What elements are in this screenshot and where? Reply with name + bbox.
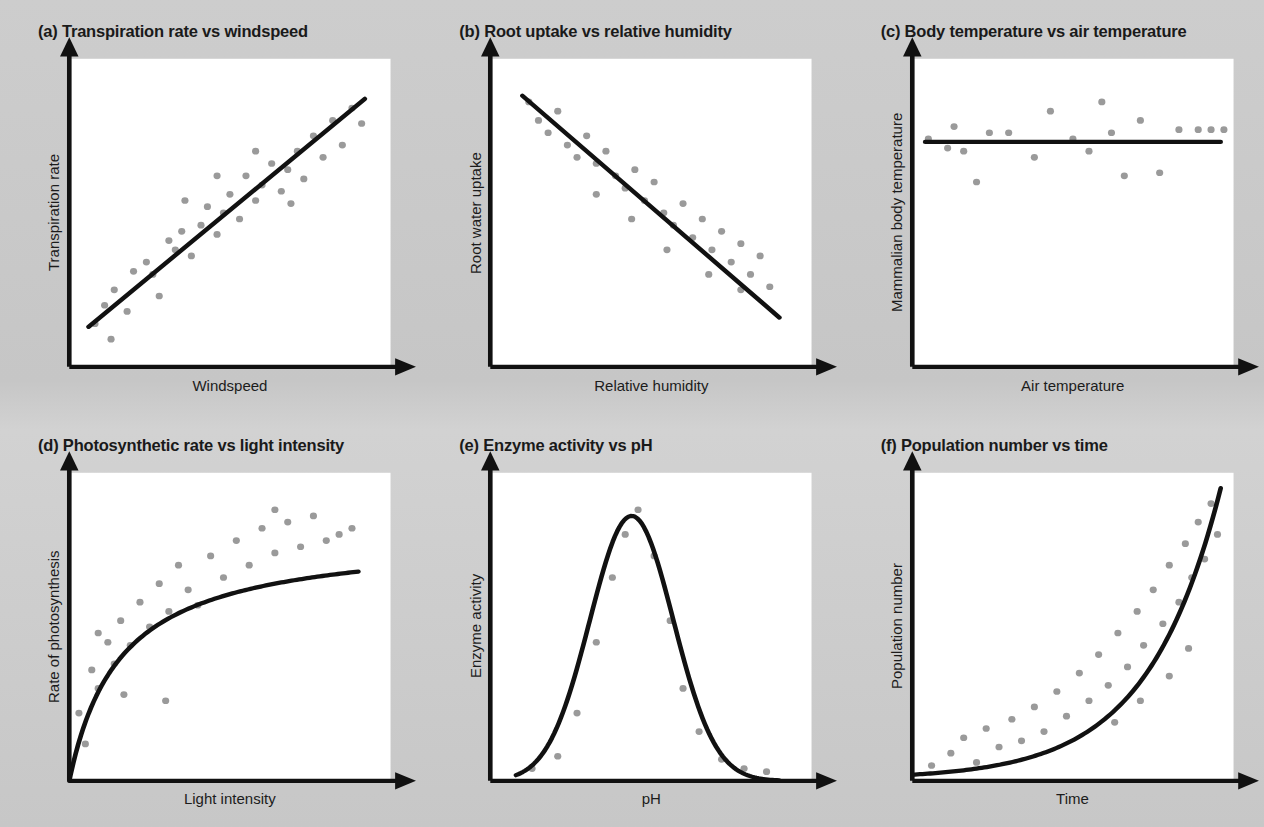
data-point <box>1165 561 1172 568</box>
panel-c-plot <box>873 48 1254 404</box>
panel-a-content <box>60 37 416 375</box>
data-point <box>973 759 980 766</box>
data-point <box>175 561 182 568</box>
x-axis-arrowhead <box>395 772 416 789</box>
plot-area <box>912 472 1233 780</box>
data-point <box>545 129 552 136</box>
data-point <box>747 271 754 278</box>
data-point <box>622 531 629 538</box>
data-point <box>944 145 951 152</box>
data-point <box>319 154 326 161</box>
data-point <box>271 506 278 513</box>
panel-f-content <box>903 451 1259 789</box>
panel-a-plot <box>30 48 411 404</box>
data-point <box>233 537 240 544</box>
x-axis-arrowhead <box>1238 772 1259 789</box>
data-point <box>1156 169 1163 176</box>
panel-e-ylabel: Enzyme activity <box>467 574 484 678</box>
panel-f-xlabel: Time <box>1056 790 1089 807</box>
data-point <box>323 537 330 544</box>
plot-area <box>912 59 1233 367</box>
data-point <box>120 691 127 698</box>
data-point <box>718 228 725 235</box>
panel-a-xlabel: Windspeed <box>192 377 267 394</box>
panel-grid: (a) Transpiration rate vs windspeed Wind… <box>0 0 1264 827</box>
data-point <box>107 336 114 343</box>
panel-d-content <box>60 451 416 789</box>
data-point <box>1220 126 1227 133</box>
data-point <box>767 283 774 290</box>
data-point <box>213 173 220 180</box>
data-point <box>181 197 188 204</box>
x-axis-arrowhead <box>816 358 837 375</box>
data-point <box>284 518 291 525</box>
data-point <box>204 203 211 210</box>
panel-f: (f) Population number vs time Time Popul… <box>843 414 1264 827</box>
data-point <box>1214 531 1221 538</box>
panel-e-content <box>481 451 837 789</box>
data-point <box>1008 715 1015 722</box>
data-point <box>651 179 658 186</box>
panel-d-xlabel: Light intensity <box>184 790 276 807</box>
data-point <box>1111 718 1118 725</box>
data-point <box>88 666 95 673</box>
data-point <box>310 512 317 519</box>
data-point <box>1040 728 1047 735</box>
data-point <box>287 200 294 207</box>
data-point <box>1108 129 1115 136</box>
data-point <box>185 586 192 593</box>
panel-a-svg <box>30 48 411 404</box>
data-point <box>1005 129 1012 136</box>
data-point <box>1120 173 1127 180</box>
data-point <box>603 148 610 155</box>
panel-a-title: (a) Transpiration rate vs windspeed <box>38 22 308 41</box>
data-point <box>226 191 233 198</box>
panel-a-ylabel: Transpiration rate <box>45 154 62 271</box>
data-point <box>628 216 635 223</box>
data-point <box>1030 154 1037 161</box>
panel-b-ylabel: Root water uptake <box>467 152 484 274</box>
data-point <box>207 552 214 559</box>
data-point <box>1165 672 1172 679</box>
data-point <box>258 524 265 531</box>
data-point <box>609 574 616 581</box>
panel-c: (c) Body temperature vs air temperature … <box>843 0 1264 414</box>
data-point <box>252 148 259 155</box>
panel-b-title: (b) Root uptake vs relative humidity <box>459 22 731 41</box>
panel-e-svg <box>451 462 832 818</box>
figure-sheet: (a) Transpiration rate vs windspeed Wind… <box>0 0 1264 827</box>
panel-b-plot <box>451 48 832 404</box>
data-point <box>973 179 980 186</box>
data-point <box>995 743 1002 750</box>
panel-d-svg <box>30 462 411 818</box>
panel-c-svg <box>873 48 1254 404</box>
data-point <box>1159 620 1166 627</box>
data-point <box>124 308 131 315</box>
panel-b: (b) Root uptake vs relative humidity Rel… <box>421 0 842 414</box>
data-point <box>348 524 355 531</box>
data-point <box>1095 651 1102 658</box>
data-point <box>960 734 967 741</box>
data-point <box>358 120 365 127</box>
data-point <box>1075 669 1082 676</box>
data-point <box>705 271 712 278</box>
panel-f-svg <box>873 462 1254 818</box>
data-point <box>101 302 108 309</box>
data-point <box>1085 148 1092 155</box>
data-point <box>300 176 307 183</box>
panel-f-ylabel: Population number <box>888 563 905 689</box>
data-point <box>1063 712 1070 719</box>
data-point <box>104 638 111 645</box>
panel-e: (e) Enzyme activity vs pH pH Enzyme acti… <box>421 414 842 827</box>
data-point <box>1185 645 1192 652</box>
data-point <box>75 709 82 716</box>
data-point <box>252 197 259 204</box>
panel-b-content <box>481 37 837 375</box>
panel-c-xlabel: Air temperature <box>1021 377 1124 394</box>
data-point <box>554 108 561 115</box>
panel-d-title: (d) Photosynthetic rate vs light intensi… <box>38 436 344 455</box>
panel-c-title: (c) Body temperature vs air temperature <box>881 22 1187 41</box>
data-point <box>1104 682 1111 689</box>
data-point <box>564 142 571 149</box>
data-point <box>156 580 163 587</box>
